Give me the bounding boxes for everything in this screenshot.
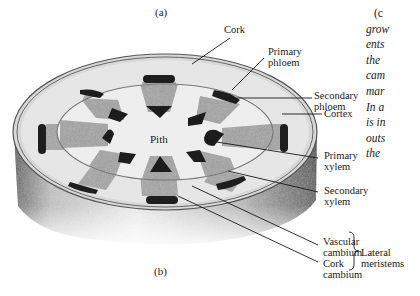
caption-b: (b) [154,265,167,277]
primary-xylem-label: Primary xylem [324,150,358,172]
pith-label: Pith [150,134,168,145]
cork-cambium-label: Cork cambium [323,258,362,280]
vascular-cambium-label: Vascular cambium [323,236,362,258]
cork-label: Cork [224,24,245,35]
stem-diagram: (a) (b) Pith Cork Primary phloem Seconda… [0,0,420,296]
caption-a: (a) [155,6,167,18]
side-text-column: (c grow ents the cam mar In a is in outs… [366,6,420,162]
lateral-meristems-label: Lateral meristems [361,247,404,269]
primary-phloem-label: Primary phloem [268,46,302,68]
secondary-xylem-label: Secondary xylem [324,185,368,207]
cortex-label: Cortex [324,108,353,119]
